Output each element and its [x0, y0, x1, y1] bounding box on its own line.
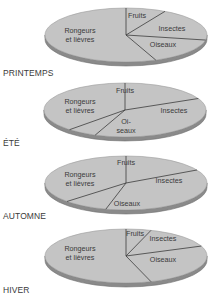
seasonal-diet-pie-charts: FruitsInsectesOiseauxRongeurset lièvresF…: [0, 0, 217, 298]
season-label-automne: AUTOMNE: [3, 211, 46, 221]
slice-label-rongeurs-et-lievres: Rongeurset lièvres: [64, 170, 96, 188]
slice-label-fruits: Fruits: [116, 86, 134, 95]
slice-label-insectes: Insectes: [150, 234, 177, 243]
pie-printemps: FruitsInsectesOiseauxRongeurset lièvres: [45, 8, 207, 66]
slice-label-insectes: Insectes: [156, 176, 183, 185]
pie-charts-canvas: FruitsInsectesOiseauxRongeurset lièvresF…: [0, 0, 217, 298]
slice-label-fruits: Fruits: [126, 229, 144, 238]
season-label-hiver: HIVER: [3, 285, 29, 295]
slice-label-rongeurs-et-lievres: Rongeurset lièvres: [64, 97, 96, 115]
slice-label-insectes: Insectes: [159, 24, 186, 33]
slice-label-fruits: Fruits: [128, 11, 146, 20]
pie-ete: FruitsInsectesOi-seauxRongeurset lièvres: [44, 83, 206, 141]
slice-label-fruits: Fruits: [117, 158, 135, 167]
slice-label-rongeurs-et-lievres: Rongeurset lièvres: [64, 26, 96, 44]
season-label-printemps: PRINTEMPS: [3, 68, 54, 78]
slice-label-oiseaux: Oiseaux: [150, 255, 177, 264]
slice-label-oiseaux: Oiseaux: [114, 199, 141, 208]
slice-label-oiseaux: Oiseaux: [150, 40, 177, 49]
slice-label-insectes: Insectes: [161, 106, 188, 115]
pie-hiver: FruitsInsectesOiseauxRongeurset lièvres: [45, 229, 207, 287]
season-label-ete: ÉTÉ: [3, 138, 20, 148]
slice-label-rongeurs-et-lievres: Rongeurset lièvres: [64, 244, 96, 262]
pie-automne: FruitsInsectesOiseauxRongeurset lièvres: [45, 156, 207, 214]
